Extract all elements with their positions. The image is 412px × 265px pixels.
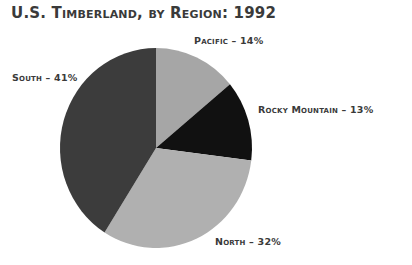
label-south: South – 41% bbox=[12, 72, 77, 83]
pie-slices bbox=[60, 48, 252, 248]
label-rocky-mountain: Rocky Mountain – 13% bbox=[258, 104, 373, 115]
label-pacific: Pacific – 14% bbox=[194, 35, 263, 46]
label-north: North – 32% bbox=[215, 236, 281, 247]
